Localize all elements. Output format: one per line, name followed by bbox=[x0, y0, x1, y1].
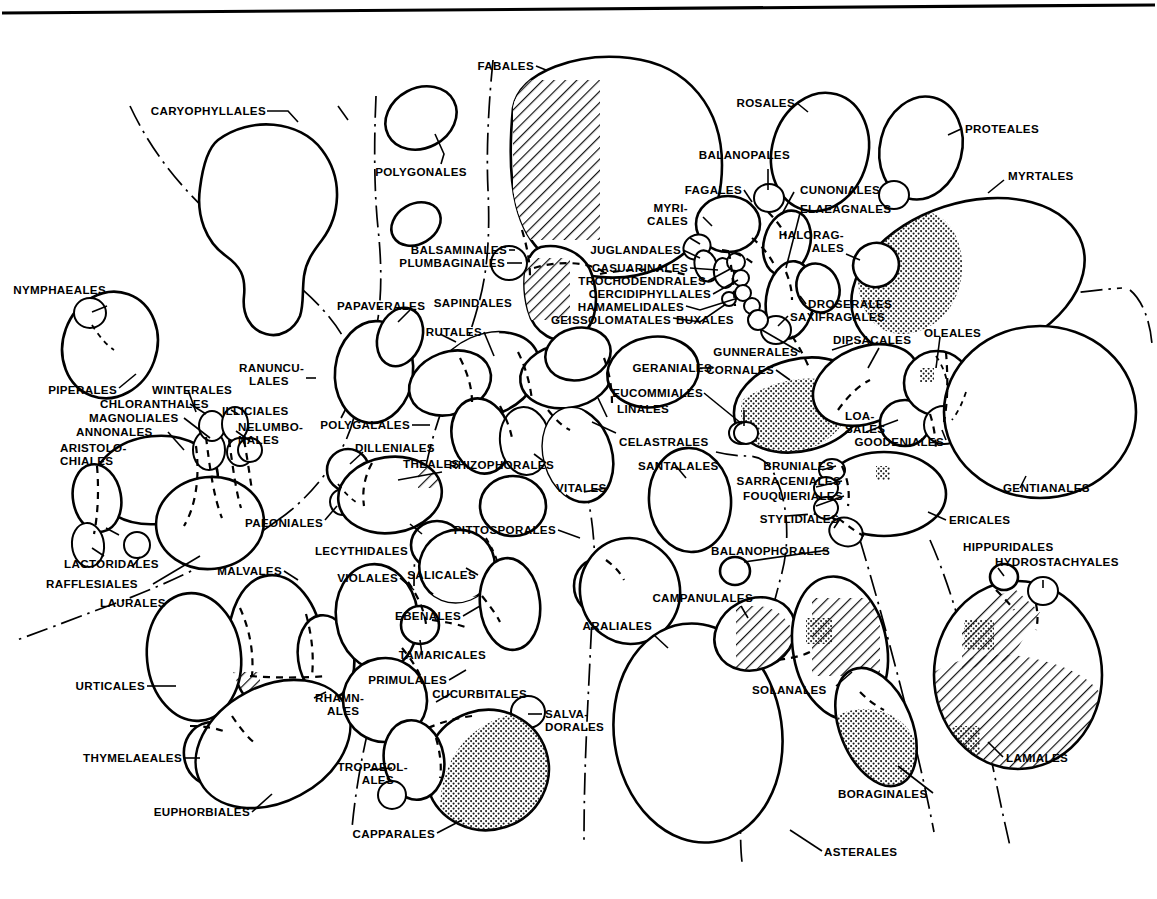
label-linales: LINALES bbox=[617, 402, 669, 415]
label-rosales: ROSALES bbox=[737, 96, 796, 109]
label-saxifragales: SAXIFRAGALES bbox=[790, 310, 885, 323]
label-geraniales: GERANIALES bbox=[632, 361, 712, 374]
label-nelumbonales-2: NALES bbox=[238, 433, 279, 446]
label-fouquieriales: FOUQUIERIALES bbox=[743, 489, 843, 502]
bubble-eucommiales bbox=[734, 422, 758, 444]
label-lactoridales: LACTORIDALES bbox=[64, 557, 159, 570]
label-aristolochiales-1: ARISTOLO- bbox=[60, 441, 127, 454]
top-rule bbox=[2, 5, 1155, 13]
label-goodeniales: GOODENIALES bbox=[854, 435, 944, 448]
label-salvadorales-2: DORALES bbox=[545, 720, 604, 733]
label-illiciales: ILLICIALES bbox=[222, 404, 289, 417]
label-hydrostachyales: HYDROSTACHYALES bbox=[995, 555, 1119, 568]
label-laurales: LAURALES bbox=[100, 596, 166, 609]
label-sapindales: SAPINDALES bbox=[434, 296, 512, 309]
label-polygonales: POLYGONALES bbox=[375, 165, 467, 178]
label-primulales: PRIMULALES bbox=[368, 673, 447, 686]
label-chloranthales: CHLORANTHALES bbox=[100, 397, 209, 410]
label-eucommiales: EUCOMMIALES bbox=[612, 386, 703, 399]
label-proteales: PROTEALES bbox=[965, 122, 1039, 135]
label-aristolochiales-2: CHIALES bbox=[60, 454, 113, 467]
bubble-gentianales bbox=[944, 326, 1136, 498]
label-lecythidales: LECYTHIDALES bbox=[315, 544, 408, 557]
label-celastrales: CELASTRALES bbox=[619, 435, 709, 448]
angiosperm-bubble-diagram: CARYOPHYLLALES POLYGONALES BALSAMINALES … bbox=[0, 0, 1157, 899]
label-vitales: VITALES bbox=[556, 481, 607, 494]
label-salvadorales-1: SALVA- bbox=[545, 707, 589, 720]
label-sarraceniales: SARRACENIALES bbox=[737, 474, 841, 487]
label-asterales: ASTERALES bbox=[824, 845, 897, 858]
label-cornales: CORNALES bbox=[706, 363, 774, 376]
label-ranunculales-1: RANUNCU- bbox=[239, 361, 304, 374]
label-gentianales: GENTIANALES bbox=[1003, 481, 1090, 494]
bubble-cercidiphyllales bbox=[733, 270, 749, 286]
label-loasales-2: SALES bbox=[845, 422, 885, 435]
label-buxales: BUXALES bbox=[676, 313, 734, 326]
label-campanulales: CAMPANULALES bbox=[652, 591, 753, 604]
label-haloragales-2: ALES bbox=[812, 241, 844, 254]
label-myricales-2: CALES bbox=[647, 214, 688, 227]
label-dilleniales: DILLENIALES bbox=[355, 441, 435, 454]
bubble-nymphaeales-lobe bbox=[74, 298, 106, 328]
label-cercidiphyllales: CERCIDIPHYLLALES bbox=[589, 287, 711, 300]
bubble-balanopales bbox=[754, 184, 784, 212]
label-santalales: SANTALALES bbox=[638, 459, 719, 472]
label-rhamnales-2: ALES bbox=[327, 704, 359, 717]
label-balanophorales: BALANOPHORALES bbox=[711, 544, 830, 557]
label-rutales: RUTALES bbox=[426, 325, 482, 338]
label-solanales: SOLANALES bbox=[752, 683, 827, 696]
label-geissolomatales: GEISSOLOMATALES bbox=[551, 313, 671, 326]
bubble-lactoridales bbox=[124, 532, 150, 558]
label-capparales: CAPPARALES bbox=[352, 827, 435, 840]
label-balanopales: BALANOPALES bbox=[699, 148, 790, 161]
bubble-polygonales bbox=[374, 74, 468, 162]
label-lamiales: LAMIALES bbox=[1006, 751, 1068, 764]
label-elaeagnales: ELAEAGNALES bbox=[800, 202, 891, 215]
label-malvales: MALVALES bbox=[217, 564, 282, 577]
label-plumbaginales: PLUMBAGINALES bbox=[399, 256, 505, 269]
label-trochodendrales: TROCHODENDRALES bbox=[578, 274, 706, 287]
label-pittosporales: PITTOSPORALES bbox=[454, 523, 556, 536]
label-araliales: ARALIALES bbox=[583, 619, 653, 632]
label-euphorbiales: EUPHORBIALES bbox=[154, 805, 250, 818]
label-hippuridales: HIPPURIDALES bbox=[963, 540, 1054, 553]
label-nelumbonales-1: NELUMBO- bbox=[238, 420, 303, 433]
label-cucurbitales: CUCURBITALES bbox=[432, 687, 527, 700]
label-loasales-1: LOA- bbox=[845, 409, 875, 422]
label-urticales: URTICALES bbox=[76, 679, 146, 692]
label-hamamelidales: HAMAMELIDALES bbox=[578, 300, 684, 313]
label-rhizophorales: RHIZOPHORALES bbox=[449, 458, 554, 471]
label-balsaminales: BALSAMINALES bbox=[411, 243, 507, 256]
diagram-page: CARYOPHYLLALES POLYGONALES BALSAMINALES … bbox=[0, 0, 1157, 899]
label-juglandales: JUGLANDALES bbox=[590, 243, 681, 256]
label-ebenales: EBENALES bbox=[395, 609, 461, 622]
label-tropaeolales-1: TROPAEOL- bbox=[337, 760, 408, 773]
label-ericales: ERICALES bbox=[949, 513, 1010, 526]
label-boraginales: BORAGINALES bbox=[838, 787, 928, 800]
label-ranunculales-2: LALES bbox=[249, 374, 289, 387]
label-tropaeolales-2: ALES bbox=[362, 773, 394, 786]
label-cuniales: CUNONIALES bbox=[800, 183, 880, 196]
label-oleales: OLEALES bbox=[924, 326, 981, 339]
label-casuarinales: CASUARINALES bbox=[592, 261, 688, 274]
label-dipsacales: DIPSACALES bbox=[833, 333, 911, 346]
label-violales: VIOLALES bbox=[337, 571, 398, 584]
label-annonales: ANNONALES bbox=[76, 425, 153, 438]
label-droserales: DROSERALES bbox=[808, 297, 892, 310]
label-rhamnales-1: RHAMN- bbox=[315, 691, 364, 704]
label-thymelaeales: THYMELAEALES bbox=[83, 751, 182, 764]
label-haloragales-1: HALORAG- bbox=[779, 228, 844, 241]
label-stylidiales: STYLIDIALES bbox=[760, 512, 839, 525]
label-gunnerales: GUNNERALES bbox=[713, 345, 798, 358]
label-papaverales: PAPAVERALES bbox=[337, 299, 425, 312]
label-magnoliales: MAGNOLIALES bbox=[89, 411, 179, 424]
label-polygalales: POLYGALALES bbox=[320, 418, 410, 431]
label-myrtales: MYRTALES bbox=[1008, 169, 1074, 182]
label-paeoniales: PAEONIALES bbox=[245, 516, 323, 529]
label-fabales: FABALES bbox=[477, 59, 534, 72]
label-fagales: FAGALES bbox=[685, 183, 742, 196]
label-tamaricales: TAMARICALES bbox=[399, 648, 486, 661]
label-rafflesiales: RAFFLESIALES bbox=[46, 577, 138, 590]
label-myricales-1: MYRI- bbox=[653, 201, 688, 214]
label-caryophyllales: CARYOPHYLLALES bbox=[151, 104, 266, 117]
